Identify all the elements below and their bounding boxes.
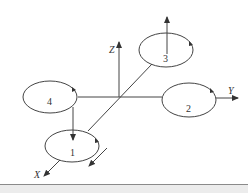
- footer-bar: [0, 184, 248, 193]
- z-axis-label: Z: [109, 44, 115, 55]
- rotor-3-label: 3: [163, 53, 168, 64]
- x-axis-label: X: [33, 169, 41, 180]
- quadrotor-diagram: Z Y X 3 4 2 1: [0, 0, 248, 193]
- y-axis-label: Y: [228, 85, 235, 96]
- rotor-3: 3: [139, 17, 193, 67]
- x-axis: [44, 160, 60, 176]
- rotor-1-label: 1: [70, 147, 75, 158]
- diagram-canvas: Z Y X 3 4 2 1: [0, 0, 248, 193]
- rotor-4-label: 4: [47, 96, 52, 107]
- rotor-1: 1: [45, 130, 99, 162]
- rotor-4: 4: [23, 81, 77, 113]
- rotor-2-label: 2: [186, 103, 191, 114]
- rotor-2: 2: [162, 83, 216, 117]
